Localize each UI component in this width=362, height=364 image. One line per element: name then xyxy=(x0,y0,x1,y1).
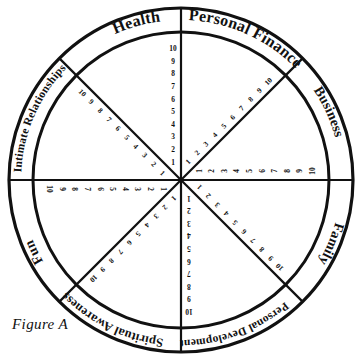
tick-family-5: 5 xyxy=(245,169,254,173)
tick-family-2: 2 xyxy=(207,169,216,173)
tick-intimate-relationships-3: 3 xyxy=(133,187,142,191)
tick-personal-finance-5: 5 xyxy=(171,107,175,116)
tick-family-3: 3 xyxy=(220,169,229,173)
tick-family-10: 10 xyxy=(308,167,317,175)
tick-family-6: 6 xyxy=(258,169,267,173)
tick-family-8: 8 xyxy=(283,169,292,173)
tick-personal-finance-4: 4 xyxy=(171,120,175,129)
tick-family-1: 1 xyxy=(195,169,204,173)
tick-intimate-relationships-10: 10 xyxy=(45,185,54,193)
tick-personal-finance-6: 6 xyxy=(171,95,175,104)
tick-family-9: 9 xyxy=(295,169,304,173)
tick-personal-finance-3: 3 xyxy=(171,132,175,141)
tick-spiritual-awareness-9: 9 xyxy=(187,294,191,303)
tick-personal-finance-1: 1 xyxy=(171,158,175,167)
tick-intimate-relationships-2: 2 xyxy=(146,187,155,191)
tick-spiritual-awareness-7: 7 xyxy=(187,269,191,278)
tick-personal-finance-9: 9 xyxy=(171,57,175,66)
tick-intimate-relationships-8: 8 xyxy=(70,187,79,191)
tick-spiritual-awareness-10: 10 xyxy=(185,307,193,316)
tick-spiritual-awareness-6: 6 xyxy=(187,257,191,266)
tick-spiritual-awareness-3: 3 xyxy=(187,219,191,228)
tick-family-4: 4 xyxy=(232,169,241,173)
tick-spiritual-awareness-1: 1 xyxy=(187,194,191,203)
tick-intimate-relationships-6: 6 xyxy=(96,187,105,191)
tick-personal-finance-2: 2 xyxy=(171,145,175,154)
tick-intimate-relationships-7: 7 xyxy=(83,187,92,191)
tick-spiritual-awareness-5: 5 xyxy=(187,244,191,253)
tick-family-7: 7 xyxy=(270,169,279,173)
tick-personal-finance-7: 7 xyxy=(171,82,175,91)
tick-spiritual-awareness-4: 4 xyxy=(187,231,191,240)
figure-caption: Figure A xyxy=(12,316,68,333)
wheel-of-life-svg: Personal Finance Health Intimate Relatio… xyxy=(0,0,362,364)
tick-intimate-relationships-4: 4 xyxy=(121,187,130,191)
tick-intimate-relationships-1: 1 xyxy=(159,187,168,191)
tick-personal-finance-10: 10 xyxy=(169,44,177,53)
tick-personal-finance-8: 8 xyxy=(171,69,175,78)
tick-spiritual-awareness-8: 8 xyxy=(187,282,191,291)
wheel-of-life-figure: Personal Finance Health Intimate Relatio… xyxy=(0,0,362,364)
tick-intimate-relationships-9: 9 xyxy=(58,187,67,191)
tick-intimate-relationships-5: 5 xyxy=(108,187,117,191)
tick-spiritual-awareness-2: 2 xyxy=(187,206,191,215)
